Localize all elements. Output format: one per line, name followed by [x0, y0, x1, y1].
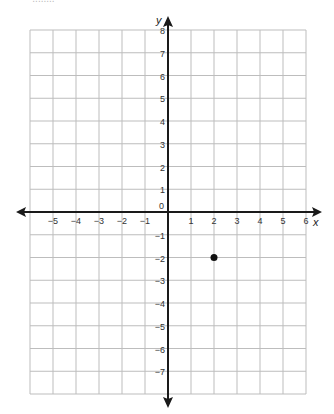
x-tick-label: −4 [71, 216, 81, 226]
coordinate-plane: xy0 −5−4−3−2−1123456 87654321−1−2−3−4−5−… [0, 0, 334, 414]
y-tick-label: −4 [155, 299, 165, 309]
y-tick-label: 8 [160, 26, 165, 36]
y-tick-label: 7 [160, 49, 165, 59]
x-tick-label: −2 [117, 216, 127, 226]
x-tick-label: −3 [94, 216, 104, 226]
y-axis-label: y [155, 14, 163, 26]
x-tick-label: 2 [211, 216, 216, 226]
data-points [211, 254, 218, 261]
plotted-point [211, 254, 218, 261]
y-tick-label: 4 [160, 117, 165, 127]
x-tick-label: 6 [303, 216, 308, 226]
y-tick-label: −2 [155, 254, 165, 264]
y-tick-label: 5 [160, 94, 165, 104]
x-axis-label: x [312, 216, 319, 228]
y-tick-label: −5 [155, 322, 165, 332]
y-tick-label: −3 [155, 276, 165, 286]
y-tick-label: 3 [160, 140, 165, 150]
y-tick-label: −1 [155, 231, 165, 241]
x-tick-label: 4 [257, 216, 262, 226]
y-tick-label: 2 [160, 163, 165, 173]
x-tick-labels: −5−4−3−2−1123456 [48, 216, 309, 226]
x-tick-label: 1 [188, 216, 193, 226]
x-tick-label: −5 [48, 216, 58, 226]
x-tick-label: −1 [140, 216, 150, 226]
y-tick-label: −7 [155, 367, 165, 377]
origin-label: 0 [159, 201, 164, 211]
y-tick-label: 6 [160, 72, 165, 82]
y-tick-label: −6 [155, 345, 165, 355]
x-tick-label: 5 [280, 216, 285, 226]
x-tick-label: 3 [234, 216, 239, 226]
y-tick-label: 1 [160, 185, 165, 195]
